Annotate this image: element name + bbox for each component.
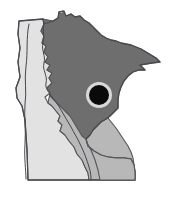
state-map-figure: [0, 0, 176, 204]
minnesota-map-svg: [0, 0, 176, 204]
location-marker-group[interactable]: [86, 82, 112, 108]
location-marker-dot[interactable]: [89, 85, 109, 105]
